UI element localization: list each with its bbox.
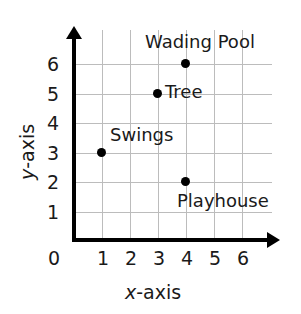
y-tick-label-2: 2: [43, 173, 63, 192]
gridline-horizontal-y1: [74, 212, 272, 213]
x-axis-title: x-axis: [125, 283, 181, 302]
y-tick-label-4: 4: [43, 114, 63, 133]
data-point-label-playhouse: Playhouse: [177, 192, 269, 210]
gridline-horizontal-y4: [74, 123, 272, 124]
data-point-swings[interactable]: [97, 148, 106, 157]
x-tick-label-5: 5: [205, 249, 225, 268]
x-tick-label-2: 2: [121, 249, 141, 268]
plot-area: Wading Pool Tree Swings Playhouse 6 5 4 …: [0, 0, 301, 314]
x-tick-label-4: 4: [177, 249, 197, 268]
x-tick-label-3: 3: [149, 249, 169, 268]
x-axis-title-variable: x: [125, 281, 136, 303]
x-axis-line: [72, 238, 269, 242]
y-tick-label-5: 5: [43, 85, 63, 104]
y-axis-line: [72, 38, 76, 242]
data-point-label-tree: Tree: [165, 83, 203, 101]
data-point-label-swings: Swings: [110, 126, 173, 144]
y-axis-arrow-icon: [66, 26, 82, 39]
y-axis-title-suffix: -axis: [16, 124, 38, 169]
y-tick-label-6: 6: [43, 55, 63, 74]
y-axis-title: y-axis: [18, 124, 37, 180]
x-axis-arrow-icon: [267, 232, 280, 248]
x-tick-label-1: 1: [93, 249, 113, 268]
y-tick-label-1: 1: [43, 203, 63, 222]
x-tick-label-0: 0: [44, 249, 64, 268]
data-point-tree[interactable]: [153, 89, 162, 98]
x-tick-label-6: 6: [233, 249, 253, 268]
y-tick-label-3: 3: [43, 144, 63, 163]
gridline-vertical-x1: [102, 30, 103, 242]
data-point-label-wading-pool: Wading Pool: [145, 33, 255, 51]
gridline-horizontal-y6: [74, 64, 272, 65]
data-point-wading-pool[interactable]: [181, 59, 190, 68]
data-point-playhouse[interactable]: [181, 177, 190, 186]
x-axis-title-suffix: -axis: [136, 281, 181, 303]
y-axis-title-variable: y: [16, 169, 38, 180]
coordinate-plane-figure: Wading Pool Tree Swings Playhouse 6 5 4 …: [0, 0, 301, 314]
gridline-horizontal-y2: [74, 182, 272, 183]
